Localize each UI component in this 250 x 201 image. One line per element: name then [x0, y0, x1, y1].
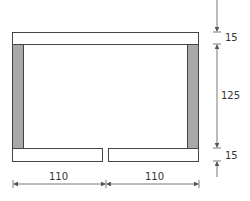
- horizontal-dimension: [13, 180, 199, 188]
- frame-diagram: 15 125 15 110 110: [0, 0, 250, 201]
- dim-right-width: 110: [145, 171, 164, 182]
- top-board: [13, 33, 199, 45]
- left-post: [13, 45, 24, 149]
- bottom-right-board: [109, 149, 199, 162]
- bottom-left-board: [13, 149, 103, 162]
- dim-left-width: 110: [49, 171, 68, 182]
- right-post: [188, 45, 199, 149]
- dim-bottom-thickness: 15: [225, 150, 238, 161]
- dim-top-thickness: 15: [225, 32, 238, 43]
- vertical-dimension: [213, 0, 221, 177]
- dim-inner-height: 125: [221, 90, 240, 101]
